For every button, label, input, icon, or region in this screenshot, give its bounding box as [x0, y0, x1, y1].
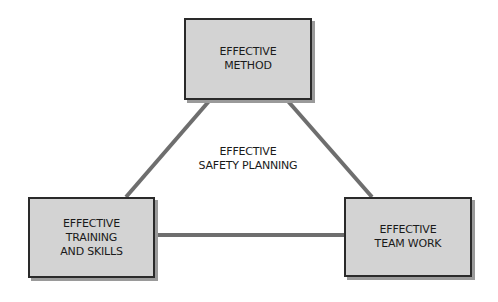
node-label-line: TEAM WORK	[375, 237, 442, 251]
center-label-line-1: EFFECTIVE	[188, 145, 308, 159]
node-label-line: TRAINING	[66, 231, 117, 245]
node-effective-training-and-skills: EFFECTIVE TRAINING AND SKILLS	[28, 197, 155, 278]
center-label-safety-planning: EFFECTIVE SAFETY PLANNING	[188, 145, 308, 173]
node-label-line: AND SKILLS	[60, 245, 122, 259]
node-label-line: EFFECTIVE	[220, 45, 277, 59]
node-label-line: EFFECTIVE	[63, 217, 120, 231]
node-effective-method: EFFECTIVE METHOD	[184, 18, 312, 100]
center-label-line-2: SAFETY PLANNING	[188, 159, 308, 173]
node-label-line: EFFECTIVE	[380, 223, 437, 237]
node-label-line: METHOD	[224, 59, 271, 73]
node-effective-team-work: EFFECTIVE TEAM WORK	[344, 197, 472, 277]
